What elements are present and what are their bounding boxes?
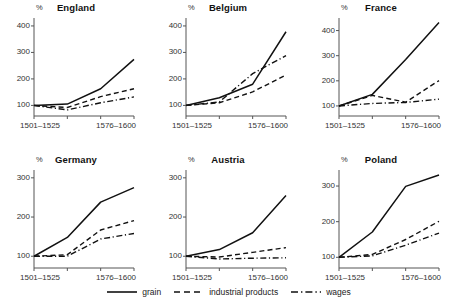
legend-item-wages: wages: [291, 287, 351, 297]
y-tick-label-belgium-100: 100: [158, 100, 182, 109]
legend-swatch-grain-icon: [107, 288, 137, 296]
legend-swatch-wages-icon: [291, 288, 321, 296]
y-tick-label-france-300: 300: [311, 51, 335, 60]
y-tick-label-belgium-200: 200: [158, 74, 182, 83]
y-tick-label-england-400: 400: [6, 21, 30, 30]
y-tick-label-poland-200: 200: [311, 217, 335, 226]
x-tick-label-germany-start: 1501–1525: [20, 273, 60, 282]
y-tick-label-germany-200: 200: [6, 212, 30, 221]
y-tick-label-france-400: 400: [311, 26, 335, 35]
x-tick-label-england-start: 1501–1525: [20, 121, 60, 130]
axis-lines-poland: [339, 170, 439, 268]
series-grain-england: [34, 59, 134, 105]
series-grain-germany: [34, 188, 134, 257]
x-tick-label-germany-end: 1576–1600: [96, 273, 136, 282]
panel-austria: Austria%1002003001501–15251576–1600: [152, 152, 304, 292]
series-grain-belgium: [186, 32, 286, 106]
legend-label-grain: grain: [142, 287, 161, 297]
y-tick-label-france-100: 100: [311, 101, 335, 110]
axis-lines-england: [34, 18, 134, 116]
y-tick-label-belgium-400: 400: [158, 21, 182, 30]
series-industrial-products-austria: [186, 248, 286, 257]
x-tick-label-austria-end: 1576–1600: [248, 273, 288, 282]
legend-item-industrial-products: industrial products: [174, 287, 278, 297]
series-grain-france: [339, 23, 439, 106]
legend-label-industrial-products: industrial products: [209, 287, 278, 297]
x-tick-label-belgium-end: 1576–1600: [248, 121, 288, 130]
x-tick-label-belgium-start: 1501–1525: [172, 121, 212, 130]
y-tick-label-poland-100: 100: [311, 252, 335, 261]
panel-belgium: Belgium%1002003004001501–15251576–1600: [152, 0, 304, 140]
series-wages-germany: [34, 234, 134, 257]
legend-item-grain: grain: [107, 287, 161, 297]
y-tick-label-germany-300: 300: [6, 173, 30, 182]
panel-england: England%1002003004001501–15251576–1600: [0, 0, 152, 140]
y-tick-label-england-300: 300: [6, 47, 30, 56]
chart-legend: grain industrial products wages: [0, 282, 458, 302]
y-tick-label-poland-300: 300: [311, 181, 335, 190]
panel-france: France%1002003004001501–15251576–1600: [305, 0, 457, 140]
y-tick-label-england-200: 200: [6, 74, 30, 83]
series-grain-austria: [186, 195, 286, 256]
series-wages-austria: [186, 256, 286, 259]
figure-small-multiples: England%1002003004001501–15251576–1600 B…: [0, 0, 458, 303]
x-tick-label-poland-end: 1576–1600: [401, 273, 441, 282]
x-tick-label-poland-start: 1501–1525: [325, 273, 365, 282]
y-tick-label-france-200: 200: [311, 76, 335, 85]
panel-poland: Poland%1002003001501–15251576–1600: [305, 152, 457, 292]
x-tick-label-england-end: 1576–1600: [96, 121, 136, 130]
y-tick-label-austria-100: 100: [158, 251, 182, 260]
y-tick-label-belgium-300: 300: [158, 47, 182, 56]
series-wages-england: [34, 97, 134, 110]
y-tick-label-austria-200: 200: [158, 212, 182, 221]
series-industrial-products-poland: [339, 221, 439, 257]
y-tick-label-germany-100: 100: [6, 251, 30, 260]
x-tick-label-france-end: 1576–1600: [401, 121, 441, 130]
series-industrial-products-france: [339, 81, 439, 106]
x-tick-label-austria-start: 1501–1525: [172, 273, 212, 282]
panel-germany: Germany%1002003001501–15251576–1600: [0, 152, 152, 292]
series-grain-poland: [339, 175, 439, 257]
legend-label-wages: wages: [326, 287, 351, 297]
plot-france: [305, 0, 457, 140]
y-tick-label-england-100: 100: [6, 100, 30, 109]
legend-swatch-industrial-products-icon: [174, 288, 204, 296]
series-industrial-products-germany: [34, 221, 134, 257]
y-tick-label-austria-300: 300: [158, 173, 182, 182]
x-tick-label-france-start: 1501–1525: [325, 121, 365, 130]
